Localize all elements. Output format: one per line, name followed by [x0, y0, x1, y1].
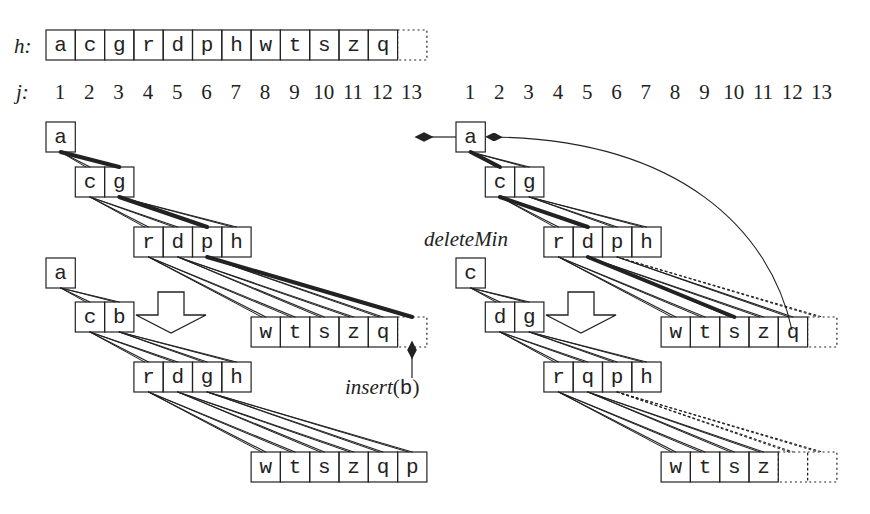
cell-value: r — [142, 366, 155, 389]
heap-node: s — [720, 452, 749, 482]
transition-arrow-icon — [546, 292, 616, 333]
heap-node: s — [310, 317, 339, 347]
cell-value: z — [757, 456, 770, 479]
index-label: 6 — [201, 80, 212, 104]
cell-value: p — [406, 456, 419, 479]
cell-value: w — [669, 321, 682, 344]
empty-slot — [398, 317, 427, 347]
index-label: 6 — [611, 80, 622, 104]
heap-node: d — [163, 227, 192, 257]
index-label: 10 — [723, 80, 744, 104]
cell-value: c — [84, 34, 97, 57]
heap-node: a — [456, 122, 485, 152]
cell-value: s — [318, 34, 331, 57]
heap-array-cell: t — [280, 30, 309, 60]
cell-value: g — [523, 306, 536, 329]
cell-value: z — [347, 456, 360, 479]
cell-value: a — [54, 126, 67, 149]
index-label: 1 — [465, 80, 476, 104]
index-label: 9 — [699, 80, 710, 104]
heap-node: h — [222, 362, 251, 392]
cell-value: r — [552, 366, 565, 389]
heap-node: a — [46, 122, 75, 152]
index-label: 3 — [113, 80, 124, 104]
cell-value: p — [201, 231, 214, 254]
insert-panel: acgrdphwtszq acbrdghwtszqp insert(b) — [46, 122, 427, 482]
heap-node: w — [251, 317, 280, 347]
cell-value: q — [377, 321, 390, 344]
insert-op-label: insert(b) — [345, 375, 419, 400]
cell-value: g — [113, 34, 126, 57]
cell-value: w — [259, 456, 272, 479]
heap-node: s — [310, 452, 339, 482]
cell-value: a — [464, 126, 477, 149]
cell-value: z — [347, 34, 360, 57]
cell-value: w — [669, 456, 682, 479]
heap-array-cell: z — [339, 30, 368, 60]
heap-array-cell: d — [163, 30, 192, 60]
delete-panel: acgrdphwtszq cdgrqphwtsz deleteMin — [424, 122, 837, 482]
cell-value: s — [318, 321, 331, 344]
heap-array-cell: s — [310, 30, 339, 60]
heap-node: r — [134, 227, 163, 257]
heap-node: z — [339, 317, 368, 347]
heap-array-cell: a — [46, 30, 75, 60]
cell-value: q — [377, 34, 390, 57]
index-label: 2 — [84, 80, 95, 104]
index-label: 4 — [143, 80, 154, 104]
heap-array-cell: h — [222, 30, 251, 60]
cell-value: p — [611, 366, 624, 389]
heap-node: z — [749, 452, 778, 482]
heap-node: z — [339, 452, 368, 482]
index-label: 9 — [289, 80, 300, 104]
index-label: 11 — [343, 80, 363, 104]
cell-value: z — [347, 321, 360, 344]
heap-array-cell — [398, 30, 427, 60]
heap-node: s — [720, 317, 749, 347]
cell-value: p — [611, 231, 624, 254]
cell-value: s — [728, 456, 741, 479]
heap-node: g — [193, 362, 222, 392]
heap-array-cell: r — [134, 30, 163, 60]
heap-node: h — [632, 227, 661, 257]
empty-slot — [808, 317, 837, 347]
heap-node: b — [105, 302, 134, 332]
heap-node: w — [251, 452, 280, 482]
index-label: 12 — [372, 80, 393, 104]
heap-node: d — [573, 227, 602, 257]
heap-node: q — [368, 317, 397, 347]
heap-node: p — [603, 227, 632, 257]
heap-array-cell: q — [368, 30, 397, 60]
heap-array-cell: w — [251, 30, 280, 60]
cell-value: q — [787, 321, 800, 344]
cell-value: t — [289, 456, 302, 479]
heap-node: c — [75, 302, 104, 332]
insert-before-tree: acgrdphwtszq — [46, 122, 427, 347]
heap-node: c — [456, 258, 485, 288]
index-label: 7 — [641, 80, 652, 104]
heap-node: t — [280, 317, 309, 347]
cell-value: g — [113, 171, 126, 194]
empty-slot — [808, 452, 837, 482]
index-label: 5 — [582, 80, 593, 104]
cell-value: d — [172, 231, 185, 254]
heap-node: d — [485, 302, 514, 332]
empty-slot — [778, 452, 807, 482]
index-label: 1 — [55, 80, 66, 104]
index-label: 13 — [401, 80, 422, 104]
cell-value: g — [523, 171, 536, 194]
heap-array-label: h: — [14, 34, 32, 58]
cell-value: d — [582, 231, 595, 254]
heap-node: r — [134, 362, 163, 392]
cell-value: c — [464, 262, 477, 285]
cell-value: c — [494, 171, 507, 194]
cell-value: z — [757, 321, 770, 344]
cell-value: g — [201, 366, 214, 389]
index-row: j: 12345678910111213 12345678910111213 — [13, 80, 832, 104]
cell-value: h — [230, 231, 243, 254]
cell-value: d — [172, 34, 185, 57]
heap-node: q — [368, 452, 397, 482]
cell-value: c — [84, 171, 97, 194]
heap-node: t — [280, 452, 309, 482]
cell-value: h — [640, 231, 653, 254]
